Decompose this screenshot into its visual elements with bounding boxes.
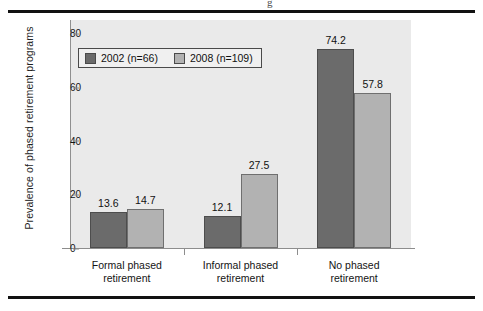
category-label-line: retirement: [203, 272, 278, 285]
legend-item-2008: 2008 (n=109): [174, 52, 253, 64]
bar-value-label-1-1: 27.5: [249, 159, 269, 171]
top-horizontal-rule: [8, 10, 475, 13]
x-axis-line: [62, 248, 415, 249]
bar-1-1: [241, 174, 278, 248]
x-tick-1: [184, 248, 185, 255]
light-gray-swatch-icon: [174, 53, 185, 64]
chart-legend: 2002 (n=66) 2008 (n=109): [78, 48, 262, 68]
category-label-line: retirement: [329, 272, 380, 285]
bar-value-label-0-1: 12.1: [212, 201, 232, 213]
category-label-1: Informal phasedretirement: [203, 259, 278, 285]
x-tick-2: [297, 248, 298, 255]
bar-chart-figure: Prevalence of phased retirement programs…: [0, 14, 483, 296]
category-label-0: Formal phasedretirement: [92, 259, 162, 285]
category-label-line: retirement: [92, 272, 162, 285]
bottom-horizontal-rule: [8, 296, 475, 299]
bar-value-label-0-2: 74.2: [325, 34, 345, 46]
category-label-line: Formal phased: [92, 259, 162, 272]
bar-0-2: [317, 49, 354, 248]
bar-0-1: [204, 216, 241, 248]
category-label-line: Informal phased: [203, 259, 278, 272]
category-label-line: No phased: [329, 259, 380, 272]
cut-off-text-fragment: g: [267, 0, 277, 8]
bar-value-label-1-0: 14.7: [135, 194, 155, 206]
bar-1-2: [354, 93, 391, 248]
dark-gray-swatch-icon: [85, 53, 96, 64]
bar-value-label-1-2: 57.8: [362, 78, 382, 90]
category-label-2: No phasedretirement: [329, 259, 380, 285]
bar-0-0: [90, 212, 127, 248]
bar-value-label-0-0: 13.6: [98, 197, 118, 209]
y-axis-title: Prevalence of phased retirement programs: [23, 13, 35, 243]
bar-1-0: [127, 209, 164, 248]
legend-item-2002: 2002 (n=66): [85, 52, 158, 64]
legend-label-2002: 2002 (n=66): [101, 52, 158, 64]
legend-label-2008: 2008 (n=109): [190, 52, 253, 64]
